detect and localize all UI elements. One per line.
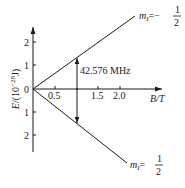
upper-line-label: mI=− 1 2 [139, 4, 181, 28]
y-tick-label: 2 [24, 130, 29, 141]
svg-text:2: 2 [156, 166, 161, 177]
svg-text:1: 1 [157, 153, 162, 164]
svg-text:E/(10−28J): E/(10−28J) [9, 69, 22, 110]
x-tick-label: 2.0 [113, 90, 126, 101]
zeeman-splitting-diagram: 2 1 0 1 2 0.5 1.5 2.0 B/T E/(10−28J) 42.… [0, 0, 185, 188]
svg-text:2: 2 [174, 17, 179, 28]
svg-text:mI=−: mI=− [139, 10, 160, 23]
svg-text:mI=: mI= [130, 159, 146, 172]
y-tick-label: 2 [24, 37, 29, 48]
x-tick-label: 1.5 [91, 90, 104, 101]
svg-text:1: 1 [175, 4, 180, 15]
frequency-label: 42.576 MHz [80, 65, 131, 76]
y-tick-label: 1 [24, 107, 29, 118]
x-tick-label: 0.5 [48, 90, 61, 101]
lower-line-label: mI= 1 2 [130, 153, 163, 177]
y-tick-label: 1 [24, 60, 29, 71]
y-tick-label: 0 [24, 84, 29, 95]
x-axis-label: B/T [150, 93, 166, 104]
upper-energy-line [33, 16, 135, 89]
y-axis-label: E/(10−28J) [9, 69, 22, 110]
